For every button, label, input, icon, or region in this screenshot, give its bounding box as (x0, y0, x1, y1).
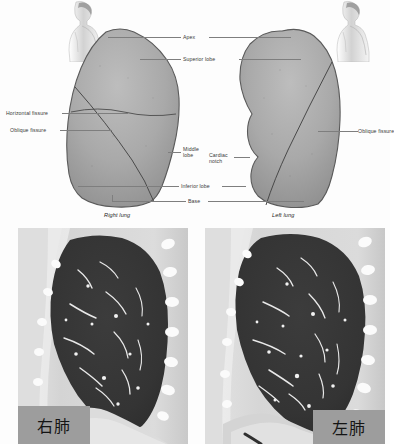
leader-horizontal-fissure (62, 113, 128, 114)
ct-caption-right-lung: 右肺 (18, 406, 90, 444)
label-superior-lobe: Superior lobe (183, 56, 215, 62)
leader-superior-left (140, 59, 181, 60)
label-base: Base (188, 198, 200, 204)
leader-middle-lobe (168, 152, 181, 153)
leader-apex-right (209, 37, 291, 38)
leader-apex-left (108, 37, 181, 38)
ct-scan-pair: 右肺 左肺 (0, 225, 390, 444)
leader-base-right (208, 201, 304, 202)
left-lung-illustration (228, 26, 348, 209)
leader-oblique-fissure-left (60, 130, 112, 131)
label-right-lung: Right lung (104, 212, 130, 218)
label-middle-lobe: Middle lobe (183, 146, 205, 158)
leader-oblique-fissure-right (318, 131, 358, 132)
label-inferior-lobe: Inferior lobe (181, 183, 210, 189)
leader-inferior-right (222, 186, 246, 187)
label-oblique-fissure-left: Oblique fissure (10, 127, 46, 133)
leader-inferior-left (78, 186, 179, 187)
label-cardiac-notch: Cardiac notch (209, 152, 233, 164)
leader-base-left (112, 201, 186, 202)
label-apex: Apex (183, 34, 195, 40)
leader-base-tick (112, 195, 113, 202)
label-horizontal-fissure: Horizontal fissure (6, 110, 48, 116)
ct-caption-left-lung: 左肺 (313, 410, 385, 444)
right-lung-illustration (58, 26, 186, 209)
leader-superior-right (239, 59, 301, 60)
label-oblique-fissure-right: Oblique fissure (358, 128, 394, 134)
leader-cardiac-notch (234, 157, 250, 158)
label-left-lung: Left lung (272, 212, 294, 218)
lung-anatomy-diagram: Apex Superior lobe Horizontal fissure Ob… (0, 0, 390, 225)
